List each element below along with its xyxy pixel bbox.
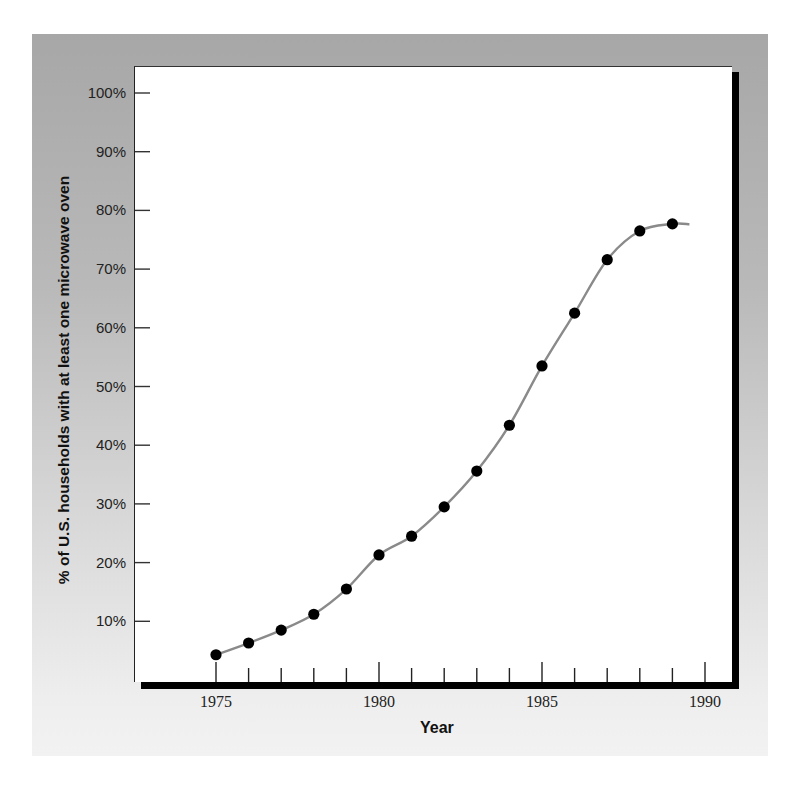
data-point-1986 <box>569 308 580 319</box>
data-point-1984 <box>504 420 515 431</box>
data-point-1975 <box>210 649 221 660</box>
data-point-1988 <box>634 225 645 236</box>
data-point-1979 <box>341 583 352 594</box>
data-point-1977 <box>276 625 287 636</box>
data-markers <box>210 218 678 660</box>
data-point-1987 <box>602 254 613 265</box>
data-point-1980 <box>373 549 384 560</box>
data-point-1983 <box>471 465 482 476</box>
line-chart: 10%20%30%40%50%60%70%80%90%100% 19751980… <box>0 0 796 788</box>
y-tick-label: 30% <box>96 495 126 512</box>
y-tick-label: 100% <box>88 84 126 101</box>
y-tick-label: 80% <box>96 201 126 218</box>
x-axis-ticks: 1975198019851990 <box>200 662 721 710</box>
data-point-1985 <box>536 360 547 371</box>
y-axis-label: % of U.S. households with at least one m… <box>55 176 73 584</box>
data-curve <box>216 223 689 654</box>
y-tick-label: 20% <box>96 554 126 571</box>
x-tick-label: 1975 <box>200 693 232 710</box>
x-tick-label: 1990 <box>689 693 721 710</box>
y-tick-label: 40% <box>96 436 126 453</box>
x-axis-label: Year <box>420 719 454 737</box>
y-tick-label: 10% <box>96 612 126 629</box>
data-point-1982 <box>439 501 450 512</box>
y-tick-label: 60% <box>96 319 126 336</box>
data-point-1978 <box>308 609 319 620</box>
y-axis-ticks: 10%20%30%40%50%60%70%80%90%100% <box>88 84 150 629</box>
y-tick-label: 70% <box>96 260 126 277</box>
x-tick-label: 1985 <box>526 693 558 710</box>
data-point-1981 <box>406 531 417 542</box>
y-tick-label: 50% <box>96 378 126 395</box>
y-tick-label: 90% <box>96 143 126 160</box>
data-point-1989 <box>667 218 678 229</box>
data-point-1976 <box>243 637 254 648</box>
x-tick-label: 1980 <box>363 693 395 710</box>
